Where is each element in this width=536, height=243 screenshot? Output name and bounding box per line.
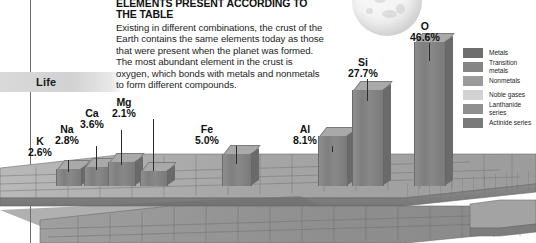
bar-Al xyxy=(318,127,346,186)
legend-label: Noble gases xyxy=(489,91,525,99)
headline-block: ELEMENTS PRESENT ACCORDING TO THE TABLE … xyxy=(116,0,328,90)
bar-front-face xyxy=(140,171,168,186)
bar-percent: 46.6% xyxy=(410,32,440,43)
bar-percent: 5.0% xyxy=(195,135,219,146)
bar-callout-Si: Si27.7% xyxy=(348,57,378,79)
legend-swatch-nonmetals xyxy=(462,75,484,87)
bar-front-face xyxy=(318,136,348,186)
bar-percent: 8.1% xyxy=(293,135,317,146)
bar-percent: 2.8% xyxy=(55,135,79,146)
legend-item: Nonmetals xyxy=(462,74,536,88)
bar-percent: 27.7% xyxy=(348,68,378,79)
legend-label: Actinide series xyxy=(489,119,531,127)
legend-item: Actinide series xyxy=(462,116,536,130)
bar-callout-Ca: Ca3.6% xyxy=(80,108,104,130)
bar-leader-line xyxy=(121,130,122,165)
bar-front-face xyxy=(414,42,446,186)
legend-swatch-transition-metals xyxy=(462,61,484,73)
legend-label: Nonmetals xyxy=(489,77,520,85)
life-band xyxy=(0,72,120,92)
legend-item: Transition metals xyxy=(462,60,536,74)
life-label: Life xyxy=(36,76,56,88)
bar-percent: 2.6% xyxy=(28,147,52,158)
bar-callout-K: K2.6% xyxy=(28,136,52,158)
page-title: ELEMENTS PRESENT ACCORDING TO THE TABLE xyxy=(116,0,328,20)
periodic-table-base xyxy=(0,140,536,243)
infographic-root: Life ELEMENTS PRESENT ACCORDING TO THE T… xyxy=(0,0,536,243)
bar-front-face xyxy=(222,154,252,186)
bar-callout-Mg: Mg2.1% xyxy=(112,97,136,119)
legend: Metals Transition metals Nonmetals Noble… xyxy=(462,46,536,130)
legend-swatch-actinide-series xyxy=(462,117,484,129)
legend-label: Metals xyxy=(489,49,508,57)
bar-callout-Na: Na2.8% xyxy=(55,124,79,146)
legend-swatch-metals xyxy=(462,47,484,59)
periodic-table-base-svg xyxy=(0,140,536,243)
bar-leader-line xyxy=(236,146,237,164)
bar-callout-Al: Al8.1% xyxy=(293,124,317,146)
bar-leader-line xyxy=(332,146,333,152)
bar-callout-O: O46.6% xyxy=(410,21,440,43)
bar-callout-Fe: Fe5.0% xyxy=(195,124,219,146)
legend-label: Lanthanide series xyxy=(489,101,536,117)
bar-front-face xyxy=(56,169,82,186)
bar-front-face xyxy=(108,162,136,186)
bar-front-face xyxy=(84,167,110,186)
legend-item: Lanthanide series xyxy=(462,102,536,116)
bar-percent: 2.1% xyxy=(112,108,136,119)
table-edge-blocks xyxy=(470,200,536,236)
legend-swatch-noble-gases xyxy=(462,89,484,101)
bar-leader-line xyxy=(367,79,368,101)
bar-leader-line xyxy=(68,160,69,172)
bar-leader-line xyxy=(429,43,430,61)
legend-swatch-lanthanide-series xyxy=(462,103,484,115)
legend-label: Transition metals xyxy=(489,59,536,75)
bar-leader-line xyxy=(153,119,154,171)
legend-item: Metals xyxy=(462,46,536,60)
bar-leader-line xyxy=(96,146,97,170)
bar-front-face xyxy=(352,90,384,186)
legend-item: Noble gases xyxy=(462,88,536,102)
bar-percent: 3.6% xyxy=(80,119,104,130)
headline-body: Existing in different combinations, the … xyxy=(116,22,328,90)
